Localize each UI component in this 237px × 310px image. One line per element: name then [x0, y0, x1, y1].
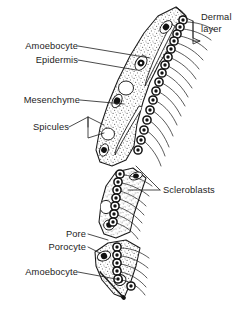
leader-pore: [88, 234, 108, 240]
label-scleroblasts: Scleroblasts: [163, 185, 215, 196]
vacuole-upper-1: [119, 81, 134, 95]
label-mesenchyme: Mesenchyme: [0, 95, 80, 106]
label-epidermis: Epidermis: [0, 55, 78, 66]
label-porocyte: Porocyte: [0, 242, 86, 253]
label-amoebocyte-upper: Amoebocyte: [0, 41, 78, 52]
leader-spicules-fork: [69, 117, 104, 138]
label-dermal-layer-line2: layer: [201, 24, 222, 35]
body-segment-middle: [99, 168, 152, 239]
label-amoebocyte-lower: Amoebocyte: [0, 267, 78, 278]
vacuole-upper-2: [102, 128, 115, 140]
label-spicules: Spicules: [0, 122, 69, 133]
label-pore: Pore: [0, 229, 86, 240]
body-segment-upper: [96, 7, 214, 166]
body-segment-lower: [95, 240, 149, 301]
label-dermal-layer-line1: Dermal: [201, 12, 232, 23]
figure-canvas: [69, 7, 214, 301]
